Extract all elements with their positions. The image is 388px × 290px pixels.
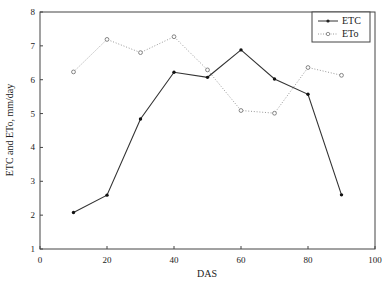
legend-etc-label: ETC xyxy=(342,15,361,26)
data-point-etc xyxy=(206,76,209,79)
chart: 12345678 020406080100 DAS ETC and ETo, m… xyxy=(0,0,388,290)
legend-eto-label: ETo xyxy=(342,28,359,39)
y-tick-label: 1 xyxy=(31,244,36,254)
data-point-etc xyxy=(239,48,242,51)
data-point-etc xyxy=(273,77,276,80)
x-tick-label: 60 xyxy=(237,255,247,265)
series-layer xyxy=(72,35,344,214)
data-point-eto xyxy=(172,35,176,39)
data-point-etc xyxy=(72,211,75,214)
x-tick-label: 80 xyxy=(304,255,314,265)
y-axis-title: ETC and ETo, mm/day xyxy=(4,84,15,177)
legend-box xyxy=(312,12,370,42)
y-tick-label: 5 xyxy=(31,109,36,119)
y-tick-label: 2 xyxy=(31,210,36,220)
data-point-eto xyxy=(239,109,243,113)
series-eto xyxy=(72,35,344,115)
y-axis-ticks: 12345678 xyxy=(31,7,44,254)
x-tick-label: 40 xyxy=(170,255,180,265)
legend-eto-marker xyxy=(326,32,329,35)
y-tick-label: 8 xyxy=(31,7,36,17)
x-tick-label: 0 xyxy=(38,255,43,265)
data-point-eto xyxy=(273,111,277,115)
data-point-etc xyxy=(306,93,309,96)
data-point-etc xyxy=(105,193,108,196)
plot-frame xyxy=(40,12,375,249)
data-point-eto xyxy=(105,38,109,42)
data-point-eto xyxy=(139,51,143,55)
series-line-etc xyxy=(74,50,342,213)
x-axis-title: DAS xyxy=(197,268,217,279)
x-tick-label: 20 xyxy=(103,255,113,265)
legend: ETC ETo xyxy=(312,12,370,42)
data-point-eto xyxy=(306,66,310,70)
data-point-etc xyxy=(340,193,343,196)
series-etc xyxy=(72,48,343,214)
y-tick-label: 3 xyxy=(31,176,36,186)
data-point-etc xyxy=(172,71,175,74)
y-tick-label: 4 xyxy=(31,142,36,152)
series-line-eto xyxy=(74,37,342,114)
legend-etc-marker xyxy=(326,19,329,22)
data-point-eto xyxy=(340,73,344,77)
data-point-etc xyxy=(139,117,142,120)
data-point-eto xyxy=(72,70,76,74)
data-point-eto xyxy=(206,68,210,72)
y-tick-label: 6 xyxy=(31,75,36,85)
x-tick-label: 100 xyxy=(368,255,382,265)
y-tick-label: 7 xyxy=(31,41,36,51)
